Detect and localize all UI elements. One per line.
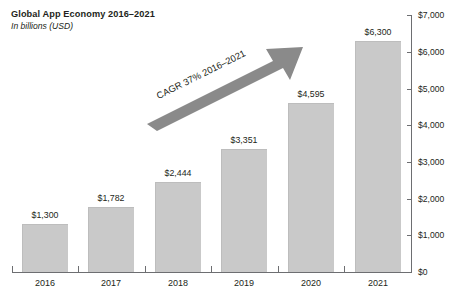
bar-value-2016: $1,300 [15, 211, 75, 220]
bar-value-2018: $2,444 [148, 169, 208, 178]
y-axis-label: $2,000 [418, 195, 444, 204]
bar-value-2021: $6,300 [348, 28, 408, 37]
bar-2020 [288, 103, 334, 272]
bar-2021 [355, 41, 401, 272]
x-axis-tick [278, 266, 279, 272]
bar-value-2019: $3,351 [214, 136, 274, 145]
y-axis-tick [407, 235, 412, 236]
chart-container: Global App Economy 2016–2021 In billions… [0, 0, 459, 300]
bar-value-2020: $4,595 [281, 90, 341, 99]
bar-2018 [155, 182, 201, 272]
plot-area: $7,000 $6,000 $5,000 $4,000 $3,000 $2,00… [0, 0, 459, 300]
x-axis-tick [344, 266, 345, 272]
y-axis-tick [407, 125, 412, 126]
category-label-2021: 2021 [348, 278, 408, 288]
y-axis-label: $7,000 [418, 11, 444, 20]
category-label-2018: 2018 [148, 278, 208, 288]
x-axis-tick [145, 266, 146, 272]
y-axis-label: $6,000 [418, 48, 444, 57]
bar-2019 [221, 149, 267, 272]
x-axis-tick [78, 266, 79, 272]
y-axis-tick [407, 199, 412, 200]
y-axis-tick [407, 162, 412, 163]
y-axis-label: $5,000 [418, 85, 444, 94]
y-axis-label: $1,000 [418, 231, 444, 240]
bar-2017 [88, 207, 134, 272]
category-label-2019: 2019 [214, 278, 274, 288]
x-axis-line [12, 272, 412, 273]
bar-value-2017: $1,782 [81, 194, 141, 203]
y-axis-label: $0 [418, 268, 428, 277]
y-axis-tick [407, 272, 412, 273]
y-axis-tick [407, 52, 412, 53]
y-axis-tick [407, 15, 412, 16]
x-axis-tick [12, 266, 13, 272]
bar-2016 [22, 224, 68, 272]
cagr-annotation-label: CAGR 37% 2016–2021 [155, 48, 247, 101]
y-axis-tick [407, 89, 412, 90]
category-label-2016: 2016 [15, 278, 75, 288]
y-axis-label: $3,000 [418, 158, 444, 167]
category-label-2017: 2017 [81, 278, 141, 288]
category-label-2020: 2020 [281, 278, 341, 288]
x-axis-tick [211, 266, 212, 272]
y-axis-label: $4,000 [418, 121, 444, 130]
